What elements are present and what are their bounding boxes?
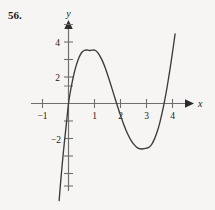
- x-axis-arrow-icon: [185, 99, 194, 107]
- x-tick-label-3: 3: [144, 111, 149, 121]
- x-tick-label--1: −1: [37, 111, 47, 121]
- curve-path: [59, 34, 175, 201]
- y-tick-label--2: −2: [51, 135, 61, 145]
- x-axis-label: x: [197, 98, 203, 109]
- y-axis-label: y: [65, 8, 71, 19]
- graph-plot: −1 1 2 3 4 4 2 −2 x y: [0, 0, 215, 210]
- x-tick-label-4: 4: [170, 111, 175, 121]
- y-tick-label-4: 4: [55, 38, 60, 48]
- x-tick-label-1: 1: [92, 111, 97, 121]
- y-tick-label-2: 2: [55, 73, 60, 83]
- figure-root: 56. −1: [0, 0, 215, 210]
